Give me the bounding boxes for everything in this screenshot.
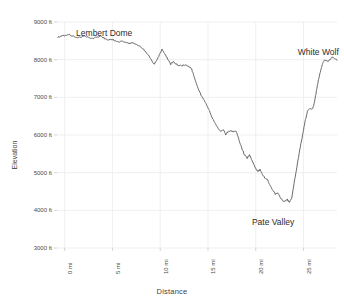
y-axis-title: Elevation (8, 110, 20, 200)
x-tick-label: 5 mi (115, 263, 121, 274)
x-tick-label: 25 mi (306, 259, 312, 274)
annotation-pate-valley: Pate Valley (252, 217, 294, 227)
y-axis-title-text: Elevation (11, 141, 18, 170)
x-tick-label: 20 mi (258, 259, 264, 274)
annotation-lembert-dome: Lembert Dome (76, 28, 132, 38)
annotation-white-wolf: White Wolf (298, 47, 339, 57)
x-tick-label: 0 mi (67, 263, 73, 274)
x-axis-title: Distance (0, 287, 344, 296)
x-axis-tick-labels: 0 mi5 mi10 mi15 mi20 mi25 mi (0, 0, 344, 307)
x-tick-label: 15 mi (210, 259, 216, 274)
x-tick-label: 10 mi (163, 259, 169, 274)
elevation-profile-chart: 3000 ft4000 ft5000 ft6000 ft7000 ft8000 … (0, 0, 344, 307)
